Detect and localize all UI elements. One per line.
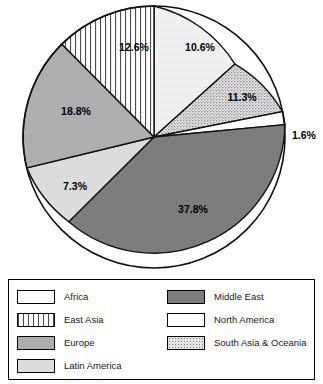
legend-item-middle-east[interactable]: Middle East: [167, 286, 306, 308]
legend-swatch-north-america: [167, 313, 205, 327]
legend-swatch-africa: [17, 290, 55, 304]
legend-swatch-europe: [17, 336, 55, 350]
slice-label-europe: 18.8%: [61, 105, 91, 117]
legend-label-north-america: North America: [214, 315, 274, 325]
legend-label-east-asia: East Asia: [64, 315, 104, 325]
pie-chart-area: 10.6% 11.3% 1.6% 37.8% 7.3% 18.8% 12.6%: [0, 0, 323, 278]
legend-label-africa: Africa: [64, 292, 88, 302]
legend-label-europe: Europe: [64, 338, 95, 348]
slice-label-africa: 10.6%: [185, 41, 215, 53]
legend-item-south-asia-oceania[interactable]: South Asia & Oceania: [167, 332, 306, 354]
legend-label-middle-east: Middle East: [214, 292, 264, 302]
legend-column-left: Africa East Asia Europe Latin America: [17, 286, 122, 378]
pie-chart-svg: 10.6% 11.3% 1.6% 37.8% 7.3% 18.8% 12.6%: [0, 0, 323, 278]
legend-label-south-asia-oceania: South Asia & Oceania: [214, 338, 306, 348]
legend-item-africa[interactable]: Africa: [17, 286, 122, 308]
slice-label-latin-america: 7.3%: [63, 180, 88, 192]
legend-swatch-middle-east: [167, 290, 205, 304]
slice-label-north-america: 1.6%: [292, 129, 317, 141]
legend-item-east-asia[interactable]: East Asia: [17, 309, 122, 331]
legend-swatch-east-asia: [17, 313, 55, 327]
legend-label-latin-america: Latin America: [64, 361, 122, 371]
legend-item-latin-america[interactable]: Latin America: [17, 355, 122, 377]
legend-column-right: Middle East North America South Asia & O…: [167, 286, 306, 355]
legend-item-north-america[interactable]: North America: [167, 309, 306, 331]
pie-slices-group: [23, 6, 285, 268]
slice-label-south-asia-oceania: 11.3%: [227, 91, 257, 103]
slice-label-middle-east: 37.8%: [178, 203, 208, 215]
legend: Africa East Asia Europe Latin America Mi…: [8, 279, 315, 380]
legend-item-europe[interactable]: Europe: [17, 332, 122, 354]
legend-swatch-latin-america: [17, 359, 55, 373]
slice-label-east-asia: 12.6%: [119, 41, 149, 53]
legend-swatch-south-asia-oceania: [167, 336, 205, 350]
